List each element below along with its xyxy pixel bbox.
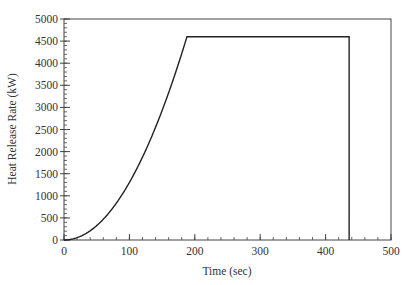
major-ticks	[60, 19, 391, 240]
y-tick-label: 3500	[35, 79, 58, 91]
y-tick-label: 2000	[35, 146, 58, 158]
y-axis-title: Heat Release Rate (kW)	[6, 73, 19, 185]
x-tick-label: 0	[61, 245, 67, 257]
y-tick-label: 3000	[35, 101, 58, 113]
x-tick-label: 500	[382, 245, 400, 257]
y-tick-label: 4000	[35, 57, 58, 69]
x-tick-label: 200	[186, 245, 204, 257]
y-tick-label: 5000	[35, 13, 58, 25]
x-axis-title: Time (sec)	[202, 265, 251, 278]
y-tick-label: 4500	[35, 35, 58, 47]
x-axis-tick-labels: 0100200300400500	[61, 245, 400, 257]
x-tick-label: 100	[121, 245, 139, 257]
y-axis-tick-labels: 0500100015002000250030003500400045005000	[35, 13, 58, 246]
y-tick-label: 500	[41, 212, 59, 224]
y-tick-label: 0	[52, 234, 58, 246]
y-tick-label: 2500	[35, 124, 58, 136]
heat-release-rate-line	[64, 37, 349, 240]
y-tick-label: 1000	[35, 190, 58, 202]
x-tick-label: 400	[317, 245, 335, 257]
heat-release-rate-chart: 0100200300400500 05001000150020002500300…	[0, 0, 415, 285]
x-tick-label: 300	[252, 245, 270, 257]
y-tick-label: 1500	[35, 168, 58, 180]
